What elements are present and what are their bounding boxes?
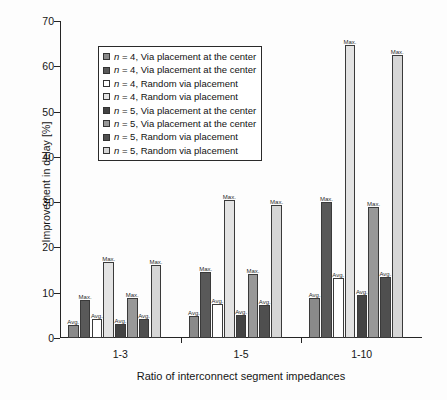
bar-value-annotation: Max. <box>391 49 404 55</box>
bar: Avg. <box>259 305 270 339</box>
bar-value-annotation: Max. <box>149 259 162 265</box>
bar: Avg. <box>139 319 150 338</box>
y-axis-tick-label: 50 <box>14 106 54 118</box>
bar-value-annotation: Avg. <box>67 319 79 325</box>
y-axis-line <box>60 21 61 338</box>
bar: Avg. <box>236 315 247 338</box>
legend-item-label: n = 4, Random via placement <box>114 92 238 102</box>
y-axis-tick-label: 70 <box>14 15 54 27</box>
bar: Max. <box>200 272 211 338</box>
y-axis-tick-label: 60 <box>14 60 54 72</box>
bar: Avg. <box>380 277 391 338</box>
bar: Max. <box>80 300 91 338</box>
y-axis-tick-label: 20 <box>14 241 54 253</box>
legend-swatch-icon <box>103 107 110 114</box>
chart-legend: n = 4, Via placement at the centern = 4,… <box>98 46 262 161</box>
bar-value-annotation: Avg. <box>235 309 247 315</box>
legend-swatch-icon <box>103 134 110 141</box>
bar: Avg. <box>92 319 103 338</box>
bar: Avg. <box>309 298 320 338</box>
bar-value-annotation: Avg. <box>379 271 391 277</box>
bar: Max. <box>248 274 259 338</box>
legend-swatch-icon <box>103 53 110 60</box>
legend-item: n = 4, Via placement at the center <box>103 50 256 63</box>
bar-value-annotation: Max. <box>223 194 236 200</box>
bar: Max. <box>151 265 162 338</box>
bar: Max. <box>127 298 138 338</box>
y-axis-tick <box>54 66 60 67</box>
bar: Max. <box>224 200 235 338</box>
x-axis-category-label: 1-10 <box>327 348 397 360</box>
bar-value-annotation: Max. <box>79 294 92 300</box>
y-axis-tick-label: 0 <box>14 332 54 344</box>
bar-value-annotation: Max. <box>344 39 357 45</box>
bar-value-annotation: Avg. <box>188 310 200 316</box>
bar: Max. <box>321 202 332 338</box>
x-axis-category-label: 1-3 <box>85 348 155 360</box>
legend-item-label: n = 5, Via placement at the center <box>114 119 256 129</box>
y-axis-tick <box>54 293 60 294</box>
y-axis-tick-label: 10 <box>14 287 54 299</box>
legend-swatch-icon <box>103 67 110 74</box>
legend-item: n = 4, Random via placement <box>103 90 256 103</box>
x-axis-category-label: 1-5 <box>206 348 276 360</box>
x-axis-title: Ratio of interconnect segment impedances <box>60 370 422 382</box>
bar-value-annotation: Avg. <box>332 272 344 278</box>
y-axis-tick <box>54 157 60 158</box>
legend-item-label: n = 5, Random via placement <box>114 146 238 156</box>
y-axis-tick <box>54 21 60 22</box>
bar-value-annotation: Max. <box>246 268 259 274</box>
legend-swatch-icon <box>103 147 110 154</box>
y-axis-tick-label: 30 <box>14 196 54 208</box>
bar: Avg. <box>115 324 126 338</box>
bar-value-annotation: Max. <box>367 201 380 207</box>
bar: Max. <box>271 205 282 338</box>
bar-value-annotation: Avg. <box>138 313 150 319</box>
y-axis-title: Improvement in delay [%] <box>40 52 52 312</box>
bar-value-annotation: Avg. <box>309 292 321 298</box>
bar-value-annotation: Max. <box>126 292 139 298</box>
bar-value-annotation: Avg. <box>356 289 368 295</box>
bar-value-annotation: Avg. <box>115 318 127 324</box>
bar: Avg. <box>189 316 200 338</box>
legend-item: n = 5, Via placement at the center <box>103 104 256 117</box>
bar: Avg. <box>357 295 368 338</box>
legend-item-label: n = 4, Via placement at the center <box>114 65 256 75</box>
y-axis-tick <box>54 202 60 203</box>
y-axis-tick-label: 40 <box>14 151 54 163</box>
legend-item: n = 5, Random via placement <box>103 144 256 157</box>
legend-swatch-icon <box>103 93 110 100</box>
bar: Max. <box>368 207 379 338</box>
legend-item: n = 4, Via placement at the center <box>103 63 256 76</box>
bar-chart-figure: Improvement in delay [%] 010203040506070… <box>0 0 447 400</box>
y-axis-tick <box>54 247 60 248</box>
bar: Max. <box>392 55 403 338</box>
bar: Avg. <box>68 325 79 338</box>
y-axis-tick <box>54 112 60 113</box>
legend-item-label: n = 5, Via placement at the center <box>114 106 256 116</box>
legend-item-label: n = 4, Random via placement <box>114 79 238 89</box>
legend-swatch-icon <box>103 120 110 127</box>
x-axis-tick <box>301 338 302 343</box>
bar-value-annotation: Max. <box>320 196 333 202</box>
bar-value-annotation: Avg. <box>259 299 271 305</box>
bar-value-annotation: Max. <box>102 256 115 262</box>
bar-value-annotation: Avg. <box>212 298 224 304</box>
bar: Avg. <box>333 278 344 338</box>
bar: Avg. <box>212 304 223 338</box>
legend-item: n = 4, Random via placement <box>103 77 256 90</box>
bar-value-annotation: Max. <box>270 199 283 205</box>
legend-swatch-icon <box>103 80 110 87</box>
bar: Max. <box>103 262 114 338</box>
x-axis-tick <box>181 338 182 343</box>
bar-value-annotation: Avg. <box>91 313 103 319</box>
legend-item-label: n = 4, Via placement at the center <box>114 52 256 62</box>
legend-item: n = 5, Via placement at the center <box>103 117 256 130</box>
y-axis-tick <box>54 338 60 339</box>
bar: Max. <box>345 45 356 338</box>
legend-item: n = 5, Random via placement <box>103 130 256 143</box>
bar-value-annotation: Max. <box>199 266 212 272</box>
legend-item-label: n = 5, Random via placement <box>114 132 238 142</box>
